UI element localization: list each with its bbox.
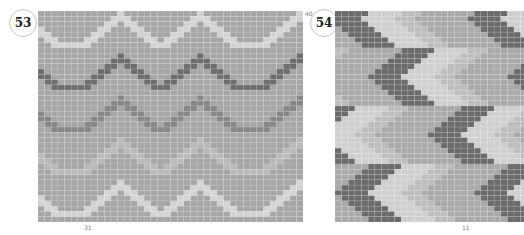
stitch-cell (434, 180, 441, 185)
stitch-cell (98, 85, 105, 90)
stitch-cell (368, 175, 375, 180)
stitch-cell (481, 180, 488, 185)
stitch-cell (368, 190, 375, 195)
stitch-cell (461, 69, 468, 74)
stitch-cell (111, 74, 118, 79)
stitch-cell (51, 74, 58, 79)
stitch-cell (45, 138, 52, 143)
stitch-cell (230, 111, 237, 116)
stitch-cell (507, 22, 514, 27)
stitch-cell (131, 32, 138, 37)
stitch-cell (65, 196, 72, 201)
stitch-cell (38, 196, 45, 201)
stitch-cell (137, 64, 144, 69)
stitch-cell (381, 175, 388, 180)
stitch-cell (521, 43, 524, 48)
stitch-cell (395, 64, 402, 69)
stitch-cell (84, 143, 91, 148)
stitch-cell (157, 138, 164, 143)
stitch-cell (177, 111, 184, 116)
stitch-cell (487, 80, 494, 85)
stitch-cell (507, 132, 514, 137)
stitch-cell (78, 111, 85, 116)
stitch-cell (217, 64, 224, 69)
stitch-cell (335, 164, 342, 169)
stitch-cell (381, 127, 388, 132)
stitch-cell (297, 159, 304, 164)
stitch-cell (151, 185, 158, 190)
stitch-cell (58, 74, 65, 79)
stitch-cell (190, 164, 197, 169)
stitch-cell (335, 122, 342, 127)
stitch-cell (230, 153, 237, 158)
stitch-cell (204, 48, 211, 53)
stitch-cell (190, 22, 197, 27)
stitch-cell (277, 196, 284, 201)
stitch-cell (441, 153, 448, 158)
stitch-cell (481, 64, 488, 69)
stitch-cell (297, 32, 304, 37)
stitch-cell (441, 143, 448, 148)
stitch-cell (421, 169, 428, 174)
stitch-cell (237, 169, 244, 174)
stitch-cell (468, 53, 475, 58)
stitch-cell (164, 74, 171, 79)
stitch-cell (408, 90, 415, 95)
stitch-cell (421, 95, 428, 100)
stitch-cell (171, 127, 178, 132)
stitch-cell (190, 74, 197, 79)
stitch-cell (257, 48, 264, 53)
stitch-cell (118, 27, 125, 32)
stitch-cell (441, 211, 448, 216)
stitch-cell (250, 101, 257, 106)
stitch-cell (428, 64, 435, 69)
stitch-cell (197, 101, 204, 106)
stitch-cell (65, 85, 72, 90)
stitch-cell (408, 211, 415, 216)
stitch-cell (388, 153, 395, 158)
stitch-cell (131, 138, 138, 143)
stitch-cell (448, 101, 455, 106)
stitch-cell (190, 58, 197, 63)
stitch-cell (270, 190, 277, 195)
stitch-cell (468, 153, 475, 158)
stitch-cell (487, 201, 494, 206)
stitch-cell (244, 206, 251, 211)
stitch-cell (401, 53, 408, 58)
stitch-cell (171, 22, 178, 27)
stitch-cell (277, 16, 284, 21)
stitch-cell (257, 64, 264, 69)
stitch-cell (401, 22, 408, 27)
stitch-cell (257, 180, 264, 185)
stitch-cell (448, 90, 455, 95)
stitch-cell (118, 43, 125, 48)
stitch-cell (501, 58, 508, 63)
stitch-cell (494, 196, 501, 201)
stitch-cell (224, 111, 231, 116)
stitch-cell (521, 206, 524, 211)
stitch-cell (230, 101, 237, 106)
stitch-cell (297, 164, 304, 169)
stitch-cell (421, 138, 428, 143)
stitch-cell (428, 169, 435, 174)
stitch-cell (111, 43, 118, 48)
stitch-cell (297, 106, 304, 111)
stitch-cell (71, 180, 78, 185)
stitch-cell (250, 138, 257, 143)
stitch-cell (224, 153, 231, 158)
stitch-cell (408, 106, 415, 111)
stitch-cell (204, 53, 211, 58)
stitch-cell (171, 74, 178, 79)
stitch-cell (277, 85, 284, 90)
stitch-cell (283, 138, 290, 143)
stitch-cell (461, 127, 468, 132)
stitch-cell (348, 211, 355, 216)
stitch-cell (481, 16, 488, 21)
stitch-cell (507, 143, 514, 148)
stitch-cell (51, 217, 58, 222)
stitch-cell (507, 80, 514, 85)
stitch-cell (65, 111, 72, 116)
stitch-cell (408, 58, 415, 63)
stitch-cell (45, 27, 52, 32)
stitch-cell (468, 185, 475, 190)
